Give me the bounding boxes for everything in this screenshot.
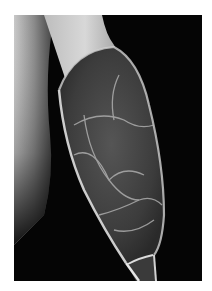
xray-rendering (14, 15, 202, 281)
radiograph-image (14, 15, 202, 281)
